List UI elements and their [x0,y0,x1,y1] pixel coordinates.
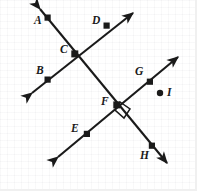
point-h [149,143,155,149]
point-b [45,77,51,83]
point-d [104,23,110,29]
point-g [147,79,153,85]
label-g: G [135,66,143,78]
label-f: F [101,96,109,108]
label-c: C [60,44,68,56]
label-b: B [36,65,44,77]
line-a-c-f-h [40,9,167,163]
point-a [45,15,51,21]
geometry-figure: A B C D E F G H I [0,0,197,191]
point-e [84,131,90,137]
point-c [71,50,78,57]
label-a: A [34,15,42,27]
point-f [113,101,120,108]
label-i: I [167,87,171,99]
label-e: E [71,123,79,135]
point-i [157,90,163,96]
label-d: D [92,15,100,27]
label-h: H [140,150,149,162]
